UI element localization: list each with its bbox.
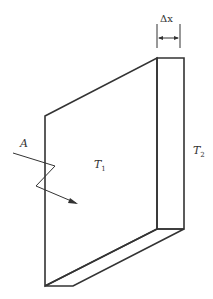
wall-side-face xyxy=(157,58,184,229)
thickness-label: Δx xyxy=(160,13,173,24)
thickness-dimension xyxy=(157,24,180,48)
wall-diagram: Δx A T1 T2 xyxy=(0,0,213,299)
temperature-t1-label: T1 xyxy=(94,158,106,173)
arrowhead-icon xyxy=(68,198,78,204)
temperature-t2-label: T2 xyxy=(193,144,205,159)
wall-bottom-face xyxy=(45,229,184,286)
area-label: A xyxy=(19,137,28,150)
